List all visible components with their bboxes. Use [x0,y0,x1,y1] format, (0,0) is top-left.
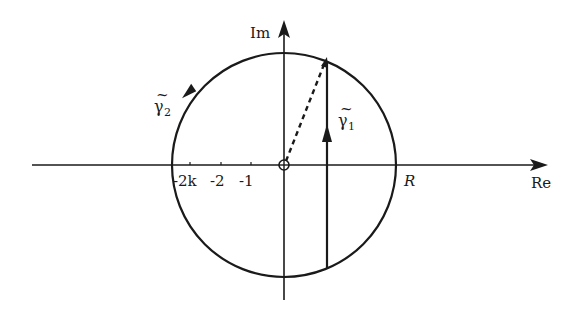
origin-marker-icon [279,160,289,170]
radius-label: R [403,172,415,190]
svg-text:γ: γ [338,111,348,130]
real-axis-label: Re [531,174,551,192]
dashed-radius-line [286,62,325,161]
svg-text:γ: γ [154,97,164,116]
tick-label-minus-2k: -2k [173,172,198,190]
contour-diagram: -2k -2 -1 R Re Im ~ γ 2 ~ γ 1 [0,0,573,310]
real-axis [32,159,548,171]
tick-label-minus-2: -2 [210,172,225,190]
gamma1-arrow-icon [322,124,332,142]
gamma1-label: ~ γ 1 [338,100,355,133]
svg-text:1: 1 [348,120,355,133]
gamma2-label: ~ γ 2 [154,86,171,119]
svg-text:2: 2 [164,106,171,119]
tick-label-minus-1: -1 [239,172,254,190]
imag-axis-label: Im [250,24,270,42]
gamma2-arrow-icon [180,83,197,98]
